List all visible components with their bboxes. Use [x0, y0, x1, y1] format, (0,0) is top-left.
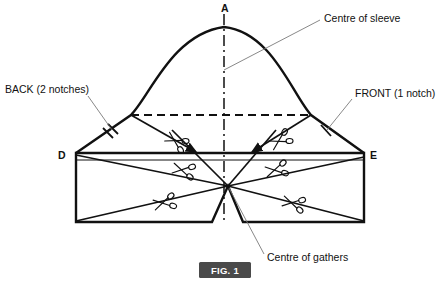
figure-caption-badge: FIG. 1 — [199, 262, 251, 278]
slash-line-upper-left — [131, 115, 196, 152]
label-back-notches: BACK (2 notches) — [5, 83, 89, 95]
slash-line-to-hem-left — [76, 186, 228, 221]
slash-line-upper-left-lower — [172, 130, 228, 186]
label-centre-of-gathers: Centre of gathers — [267, 251, 348, 263]
scissors-icon-mid-left — [171, 159, 197, 181]
leader-front — [327, 99, 352, 130]
sleeve-cap-curve — [76, 27, 364, 153]
slash-line-to-hem-right — [228, 186, 364, 221]
label-corner-d: D — [58, 149, 66, 161]
sleeve-pattern-diagram: A D E BACK (2 notches) FRONT (1 notch) C… — [0, 0, 448, 286]
label-centre-of-sleeve: Centre of sleeve — [324, 12, 401, 24]
label-corner-e: E — [370, 149, 377, 161]
leader-back — [88, 96, 112, 130]
leader-centre-of-sleeve — [224, 20, 320, 70]
figure-container: A D E BACK (2 notches) FRONT (1 notch) C… — [0, 0, 448, 286]
label-apex-a: A — [221, 2, 229, 14]
label-front-notch: FRONT (1 notch) — [355, 87, 435, 99]
figure-caption-text: FIG. 1 — [211, 265, 240, 276]
